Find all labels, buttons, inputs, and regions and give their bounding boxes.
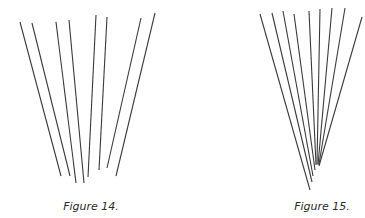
figure-line xyxy=(20,22,61,176)
figure-14-caption: Figure 14. xyxy=(41,200,141,213)
figure-14-lines xyxy=(20,13,155,183)
figure-15-caption: Figure 15. xyxy=(272,200,365,213)
figure-line xyxy=(99,17,107,170)
figure-line xyxy=(88,15,96,177)
figure-line xyxy=(69,20,84,183)
figure-line xyxy=(283,11,313,176)
figure-line xyxy=(319,8,345,164)
figure-line xyxy=(309,11,316,165)
figure-line xyxy=(116,13,155,176)
figures-canvas xyxy=(0,0,365,218)
figure-line xyxy=(317,9,320,164)
figure-line xyxy=(319,17,362,166)
figure-line xyxy=(260,14,310,190)
figure-line xyxy=(32,23,70,176)
figure-line xyxy=(272,13,312,182)
figure-15-lines xyxy=(260,8,362,190)
